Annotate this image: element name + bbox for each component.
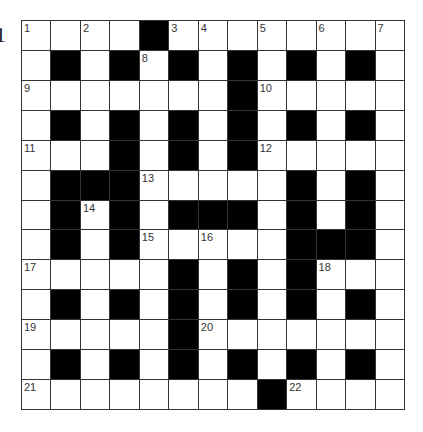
crossword-cell[interactable]: 18 xyxy=(317,260,345,289)
crossword-cell[interactable] xyxy=(317,171,345,200)
crossword-cell[interactable] xyxy=(376,141,404,170)
crossword-cell[interactable] xyxy=(317,111,345,140)
crossword-cell[interactable] xyxy=(140,201,168,230)
crossword-cell[interactable] xyxy=(346,380,374,409)
crossword-cell[interactable] xyxy=(287,141,315,170)
crossword-cell[interactable]: 12 xyxy=(258,141,286,170)
crossword-cell[interactable] xyxy=(140,350,168,379)
crossword-cell[interactable] xyxy=(169,171,197,200)
crossword-cell[interactable] xyxy=(22,51,50,80)
crossword-cell[interactable] xyxy=(199,350,227,379)
crossword-cell[interactable] xyxy=(346,141,374,170)
crossword-cell[interactable] xyxy=(376,380,404,409)
crossword-cell[interactable] xyxy=(81,380,109,409)
crossword-cell[interactable] xyxy=(317,51,345,80)
crossword-cell[interactable] xyxy=(140,320,168,349)
crossword-cell[interactable]: 14 xyxy=(81,201,109,230)
crossword-cell[interactable] xyxy=(258,51,286,80)
crossword-cell[interactable] xyxy=(110,320,138,349)
crossword-cell[interactable]: 20 xyxy=(199,320,227,349)
crossword-cell[interactable] xyxy=(140,81,168,110)
crossword-cell[interactable] xyxy=(22,201,50,230)
crossword-cell[interactable] xyxy=(81,320,109,349)
crossword-cell[interactable] xyxy=(22,230,50,259)
crossword-cell[interactable] xyxy=(258,230,286,259)
crossword-cell[interactable] xyxy=(81,260,109,289)
crossword-cell[interactable]: 5 xyxy=(258,21,286,50)
crossword-cell[interactable]: 6 xyxy=(317,21,345,50)
crossword-cell[interactable] xyxy=(199,111,227,140)
crossword-cell[interactable] xyxy=(81,350,109,379)
crossword-cell[interactable]: 19 xyxy=(22,320,50,349)
crossword-cell[interactable]: 21 xyxy=(22,380,50,409)
crossword-cell[interactable] xyxy=(258,350,286,379)
crossword-cell[interactable] xyxy=(110,21,138,50)
crossword-cell[interactable]: 11 xyxy=(22,141,50,170)
crossword-cell[interactable] xyxy=(81,230,109,259)
crossword-cell[interactable] xyxy=(317,320,345,349)
crossword-cell[interactable] xyxy=(140,290,168,319)
crossword-cell[interactable] xyxy=(317,141,345,170)
crossword-cell[interactable] xyxy=(169,81,197,110)
crossword-cell[interactable] xyxy=(376,290,404,319)
crossword-cell[interactable]: 15 xyxy=(140,230,168,259)
crossword-cell[interactable] xyxy=(199,260,227,289)
crossword-cell[interactable] xyxy=(287,81,315,110)
crossword-cell[interactable] xyxy=(317,81,345,110)
crossword-cell[interactable] xyxy=(199,141,227,170)
crossword-cell[interactable] xyxy=(258,320,286,349)
crossword-cell[interactable] xyxy=(228,171,256,200)
crossword-cell[interactable] xyxy=(140,111,168,140)
crossword-cell[interactable]: 3 xyxy=(169,21,197,50)
crossword-cell[interactable] xyxy=(22,111,50,140)
crossword-cell[interactable] xyxy=(110,81,138,110)
crossword-cell[interactable]: 2 xyxy=(81,21,109,50)
crossword-cell[interactable] xyxy=(376,320,404,349)
crossword-cell[interactable] xyxy=(376,171,404,200)
crossword-cell[interactable] xyxy=(51,380,79,409)
crossword-cell[interactable] xyxy=(346,81,374,110)
crossword-cell[interactable] xyxy=(199,171,227,200)
crossword-cell[interactable] xyxy=(376,230,404,259)
crossword-cell[interactable] xyxy=(110,380,138,409)
crossword-cell[interactable] xyxy=(376,51,404,80)
crossword-cell[interactable] xyxy=(140,141,168,170)
crossword-cell[interactable] xyxy=(376,111,404,140)
crossword-cell[interactable] xyxy=(199,81,227,110)
crossword-cell[interactable]: 16 xyxy=(199,230,227,259)
crossword-cell[interactable] xyxy=(317,350,345,379)
crossword-cell[interactable]: 22 xyxy=(287,380,315,409)
crossword-cell[interactable] xyxy=(346,21,374,50)
crossword-cell[interactable] xyxy=(317,201,345,230)
crossword-cell[interactable] xyxy=(228,380,256,409)
crossword-cell[interactable] xyxy=(22,350,50,379)
crossword-cell[interactable] xyxy=(51,81,79,110)
crossword-cell[interactable] xyxy=(376,260,404,289)
crossword-cell[interactable] xyxy=(376,81,404,110)
crossword-cell[interactable]: 1 xyxy=(22,21,50,50)
crossword-cell[interactable] xyxy=(22,290,50,319)
crossword-cell[interactable]: 8 xyxy=(140,51,168,80)
crossword-cell[interactable] xyxy=(140,380,168,409)
crossword-cell[interactable] xyxy=(317,380,345,409)
crossword-cell[interactable]: 13 xyxy=(140,171,168,200)
crossword-cell[interactable] xyxy=(81,81,109,110)
crossword-cell[interactable] xyxy=(110,260,138,289)
crossword-cell[interactable] xyxy=(199,290,227,319)
crossword-cell[interactable] xyxy=(228,230,256,259)
crossword-cell[interactable] xyxy=(258,260,286,289)
crossword-cell[interactable] xyxy=(51,260,79,289)
crossword-cell[interactable] xyxy=(376,350,404,379)
crossword-cell[interactable] xyxy=(258,171,286,200)
crossword-cell[interactable] xyxy=(81,141,109,170)
crossword-cell[interactable] xyxy=(140,260,168,289)
crossword-cell[interactable]: 9 xyxy=(22,81,50,110)
crossword-cell[interactable] xyxy=(346,260,374,289)
crossword-cell[interactable] xyxy=(51,141,79,170)
crossword-cell[interactable]: 17 xyxy=(22,260,50,289)
crossword-cell[interactable] xyxy=(346,320,374,349)
crossword-cell[interactable] xyxy=(258,111,286,140)
crossword-cell[interactable] xyxy=(51,21,79,50)
crossword-cell[interactable] xyxy=(376,201,404,230)
crossword-cell[interactable] xyxy=(51,320,79,349)
